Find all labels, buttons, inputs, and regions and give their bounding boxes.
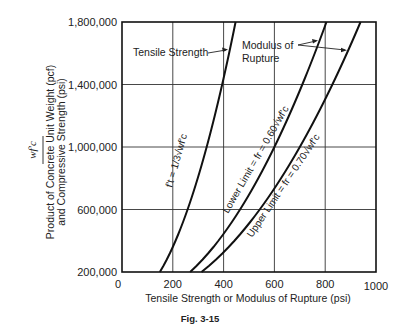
y-axis-symbol: wf'c: [26, 141, 38, 159]
x-tick-label: 1000: [364, 280, 388, 292]
y-axis-label-line2: and Compressive Strength (psi): [55, 78, 67, 226]
annotation-tensile-strength: Tensile Strength: [133, 46, 208, 58]
x-tick-label: 600: [265, 278, 283, 290]
y-tick-label: 1,800,000: [68, 16, 117, 28]
figure-caption: Fig. 3-15: [181, 313, 220, 324]
modulus-arrow-lower-head: [312, 39, 318, 44]
modulus-arrow-upper-head: [341, 48, 347, 53]
curve-label-tensile: f't = 1/3√wf'c: [163, 132, 189, 188]
y-tick-label: 200,000: [77, 266, 117, 278]
chart: 02004006008001000 200,000600,0001,000,00…: [0, 0, 397, 334]
x-axis-label: Tensile Strength or Modulus of Rupture (…: [145, 292, 350, 304]
x-tick-label: 0: [115, 278, 121, 290]
x-tick-label: 800: [316, 278, 334, 290]
annotation-modulus-2: Rupture: [242, 52, 280, 64]
x-tick-label: 400: [214, 278, 232, 290]
y-axis-label: wf'c Product of Concrete Unit Weight (pc…: [26, 65, 67, 239]
y-tick-label: 600,000: [77, 204, 117, 216]
x-tick-label: 200: [164, 278, 182, 290]
modulus-arrow-upper: [298, 45, 345, 50]
y-tick-label: 1,400,000: [68, 79, 117, 91]
annotation-modulus-1: Modulus of: [242, 39, 293, 51]
x-axis-ticks: 02004006008001000: [115, 278, 388, 292]
y-tick-label: 1,000,000: [68, 141, 117, 153]
tensile-arrow-head: [222, 48, 228, 53]
y-axis-ticks: 200,000600,0001,000,0001,400,0001,800,00…: [68, 16, 117, 278]
